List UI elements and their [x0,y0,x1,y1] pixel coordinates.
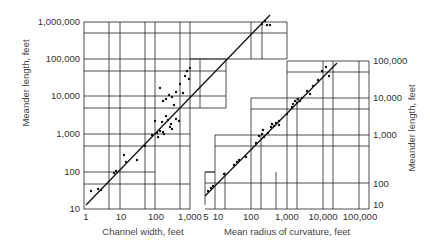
right-x-tick: 1,000 [275,211,299,222]
left-x-tick: 1 [83,211,88,222]
right-x-tick: 100,000 [343,211,377,222]
right-x-tick: 10 [213,211,224,222]
left-fit-line [86,15,270,205]
right-x-tick: 5 [203,211,208,222]
right-x-axis-title: Mean radius of curvature, feet [224,226,351,237]
left-x-tick-labels: 1 10 100 1,000 [83,211,202,222]
left-y-tick: 100,000 [46,53,80,64]
chart-canvas: 1,000,000 100,000 10,000 1,000 100 10 1 … [0,0,430,247]
left-y-tick: 10 [69,203,80,214]
right-y-tick-labels: 100,000 10,000 1,000 100 10 [373,55,407,210]
right-y-tick: 1,000 [373,129,397,140]
left-x-axis-title: Channel width, feet [102,226,184,237]
left-y-tick: 100 [64,166,80,177]
left-x-tick: 10 [116,211,127,222]
right-y-axis-title: Meander length, feet [406,84,417,172]
left-chart-grid [84,22,287,209]
left-y-tick: 10,000 [51,90,80,101]
left-y-tick-labels: 1,000,000 100,000 10,000 1,000 100 10 [38,16,80,214]
right-y-tick: 100 [373,178,389,189]
right-y-tick: 10,000 [373,92,402,103]
right-fit-line [205,63,337,196]
left-y-tick: 1,000 [56,128,80,139]
left-data-points [90,20,271,192]
left-x-tick: 1,000 [178,211,202,222]
left-y-tick: 1,000,000 [38,16,80,27]
left-x-tick: 100 [148,211,164,222]
right-y-tick: 100,000 [373,55,407,66]
left-y-axis-title: Meander length, feet [20,39,31,127]
right-x-tick: 100 [243,211,259,222]
right-x-tick: 10,000 [308,211,337,222]
right-y-tick: 10 [373,199,384,210]
right-x-tick-labels: 5 10 100 1,000 10,000 100,000 [203,211,377,222]
right-chart-grid [205,61,369,209]
